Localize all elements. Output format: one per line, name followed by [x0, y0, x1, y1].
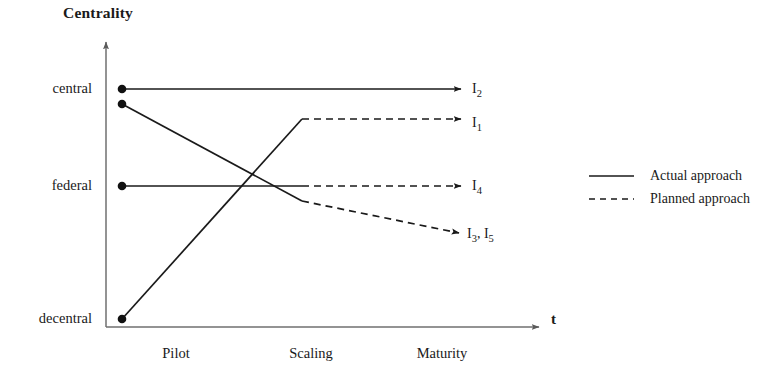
series-label-i1: I1	[472, 115, 482, 133]
series-i2-start-marker	[118, 85, 127, 94]
series-label-i4-sub: 4	[477, 185, 482, 196]
legend-label-planned: Planned approach	[650, 191, 750, 207]
x-axis-label: t	[551, 311, 556, 328]
series-label-i4: I4	[472, 178, 482, 196]
series-i1-solid-segment	[122, 119, 302, 319]
series-i1	[118, 119, 461, 323]
series-i35	[118, 100, 459, 233]
series-label-i35-sub2: 5	[489, 233, 494, 244]
series-label-i1-sub: 1	[477, 122, 482, 133]
series-label-i35-mid: , I	[477, 226, 489, 241]
y-tick-central: central	[0, 80, 92, 97]
series-i35-start-marker	[118, 100, 127, 109]
chart-figure: Centrality central federal decentral Pil…	[0, 0, 776, 386]
series-i4	[118, 182, 461, 191]
chart-title: Centrality	[63, 4, 133, 22]
series-label-i2: I2	[472, 81, 482, 99]
series-i4-start-marker	[118, 182, 127, 191]
x-tick-maturity: Maturity	[396, 345, 488, 362]
y-tick-decentral: decentral	[0, 310, 92, 327]
legend-swatches	[589, 176, 634, 199]
y-tick-federal: federal	[0, 177, 92, 194]
x-tick-pilot: Pilot	[130, 345, 222, 362]
legend-label-actual: Actual approach	[650, 168, 742, 184]
series-i35-dashed-segment	[302, 201, 459, 233]
series-label-i2-sub: 2	[477, 88, 482, 99]
series-i1-start-marker	[118, 315, 127, 324]
series-label-i35: I3, I5	[467, 226, 494, 244]
x-tick-scaling: Scaling	[265, 345, 357, 362]
series-i2	[118, 85, 461, 94]
